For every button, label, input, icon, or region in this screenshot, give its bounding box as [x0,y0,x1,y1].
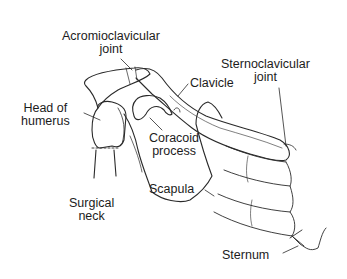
rib-1 [226,146,286,162]
label-head-of-humerus: Head of humerus [21,102,70,128]
leader-sternum [283,246,298,253]
leader-coracoid [150,118,162,130]
label-coracoid-process: Coracoid process [149,132,199,158]
label-sternum: Sternum [222,249,269,262]
acromion-shape [85,68,151,108]
label-sternoclavicular-joint: Sternoclavicular joint [221,58,310,84]
label-clavicle: Clavicle [190,77,234,90]
label-surgical-neck: Surgical neck [69,197,114,223]
leader-scapula [205,190,214,196]
leader-head-humerus [84,113,100,120]
label-scapula: Scapula [149,183,194,196]
rib-2 [224,170,290,186]
rib-4 [214,212,292,236]
rib-3 [218,194,290,212]
leader-sternoclavicular [279,88,286,146]
label-acromioclavicular-joint: Acromioclavicular joint [62,30,160,56]
leader-clavicle [178,84,188,96]
shoulder-anatomy-diagram: Acromioclavicular joint Sternoclavicular… [0,0,347,279]
humerus-head-shape [92,101,126,148]
coracoid-shape [133,96,172,120]
